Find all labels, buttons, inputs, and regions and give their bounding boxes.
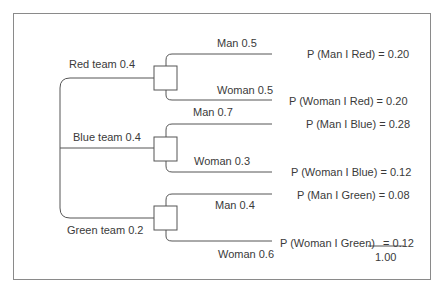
green-team-label: Green team 0.2	[67, 224, 143, 236]
result-man-red: P (Man I Red) = 0.20	[307, 48, 409, 60]
result-woman-green: P (Woman I Green) = 0.12	[280, 237, 414, 249]
blue-team-label: Blue team 0.4	[73, 131, 141, 143]
red-decision-node	[154, 66, 177, 90]
blue-man-branch	[166, 124, 272, 137]
result-woman-blue: P (Woman I Blue) = 0.12	[291, 166, 411, 178]
result-woman-green-prefix: P (Woman I Green)	[280, 237, 375, 249]
result-woman-red: P (Woman I Red) = 0.20	[289, 95, 408, 107]
result-man-green: P (Man I Green) = 0.08	[297, 189, 410, 201]
green-woman-label: Woman 0.6	[218, 248, 274, 260]
red-man-branch	[166, 54, 272, 66]
green-man-label: Man 0.4	[215, 199, 255, 211]
result-woman-green-value: 0.12	[393, 237, 414, 249]
green-woman-branch	[166, 230, 272, 241]
red-team-label: Red team 0.4	[69, 58, 135, 70]
blue-man-label: Man 0.7	[193, 106, 233, 118]
green-decision-node	[154, 206, 177, 230]
blue-decision-node	[154, 137, 177, 161]
blue-woman-label: Woman 0.3	[194, 155, 250, 167]
result-woman-green-eq: =	[383, 237, 389, 249]
red-man-label: Man 0.5	[217, 37, 257, 49]
result-man-blue: P (Man I Blue) = 0.28	[306, 118, 410, 130]
red-woman-label: Woman 0.5	[217, 84, 273, 96]
total-value: 1.00	[375, 251, 396, 263]
